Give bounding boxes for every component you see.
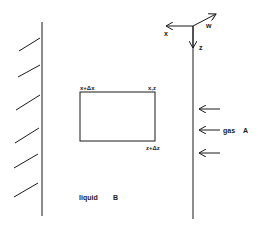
gas-label: gas <box>223 127 235 135</box>
w-axis-arrow <box>193 14 216 26</box>
label-x-plus-dx: x+Δx <box>80 85 95 91</box>
wall-hatch <box>16 95 40 110</box>
w-axis-label: w <box>205 22 212 29</box>
control-volume <box>80 92 155 141</box>
gas-species-label: A <box>243 127 248 134</box>
label-z-plus-dz: z+Δz <box>146 145 160 151</box>
liquid-species-label: B <box>113 194 118 201</box>
falling-film-diagram: x w z x+Δx x,z z+Δz gas A liquid B <box>0 0 258 229</box>
coordinate-axes <box>166 14 216 48</box>
label-x-z: x,z <box>148 85 156 91</box>
gas-flux-arrows <box>199 109 220 153</box>
wall-hatch <box>19 38 40 51</box>
x-axis-label: x <box>164 30 168 37</box>
wall-hatch <box>18 65 40 77</box>
liquid-label: liquid <box>79 194 98 202</box>
z-axis-label: z <box>199 44 203 51</box>
wall-hatch <box>14 154 38 168</box>
solid-wall <box>14 22 42 216</box>
wall-hatch <box>14 183 38 197</box>
wall-hatch <box>15 128 39 143</box>
